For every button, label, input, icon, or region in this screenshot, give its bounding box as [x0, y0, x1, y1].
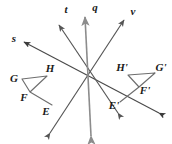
- label-vertex-h: H: [45, 62, 55, 74]
- diagram-canvas: t q v s E F G H E' F' G' H': [0, 0, 172, 144]
- label-line-t: t: [64, 3, 68, 15]
- label-vertex-e: E: [41, 105, 49, 117]
- line-labels: t q v s: [11, 1, 136, 44]
- label-vertex-f: F: [19, 91, 28, 103]
- label-line-q: q: [92, 1, 98, 13]
- label-line-v: v: [131, 5, 136, 17]
- line-s: [24, 42, 159, 113]
- label-vertex-g: G: [10, 72, 18, 84]
- label-vertex-h-prime: H': [115, 61, 128, 73]
- geometry-figure: t q v s E F G H E' F' G' H': [0, 0, 172, 144]
- line-v: [50, 20, 124, 133]
- label-vertex-f-prime: F': [139, 84, 150, 96]
- label-vertex-e-prime: E': [108, 99, 119, 111]
- label-vertex-g-prime: G': [156, 61, 167, 73]
- label-line-s: s: [11, 32, 16, 44]
